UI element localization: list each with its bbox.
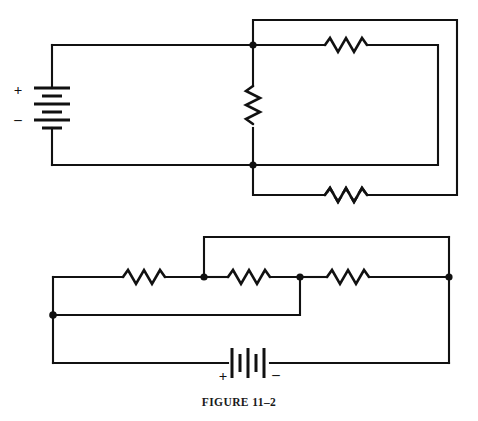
junction-dot-lower-left-mid bbox=[200, 273, 207, 280]
lower-circuit: + – bbox=[49, 237, 452, 384]
upper-circuit: + – bbox=[13, 20, 457, 202]
figure-sheet: + – bbox=[0, 0, 478, 421]
battery-plus-label-lower: + bbox=[219, 368, 228, 384]
battery-horizontal bbox=[232, 348, 264, 378]
junction-dot-lower-left bbox=[49, 311, 57, 319]
circuit-diagram: + – bbox=[0, 0, 478, 421]
battery-minus-label-lower: – bbox=[271, 366, 280, 382]
battery-minus-label-upper: – bbox=[13, 111, 22, 127]
upper-wire-outer-loop bbox=[253, 20, 457, 195]
resistor-left bbox=[123, 270, 165, 284]
resistor-top-branch bbox=[325, 38, 367, 52]
junction-dot-upper-bottom bbox=[249, 161, 256, 168]
battery-plus-label-upper: + bbox=[14, 82, 23, 98]
resistor-center bbox=[228, 270, 270, 284]
lower-wire-top-return bbox=[204, 237, 449, 277]
junction-dot-upper-top bbox=[249, 41, 256, 48]
figure-caption: FIGURE 11–2 bbox=[0, 396, 478, 408]
resistor-right bbox=[327, 270, 369, 284]
battery-vertical bbox=[34, 88, 70, 128]
junction-dot-lower-right bbox=[445, 273, 452, 280]
upper-wire-inner-lead-right bbox=[253, 45, 438, 165]
junction-dot-lower-right-mid bbox=[296, 273, 303, 280]
lower-wire-mid-shunt bbox=[53, 277, 300, 315]
resistor-middle-vertical bbox=[246, 86, 260, 124]
